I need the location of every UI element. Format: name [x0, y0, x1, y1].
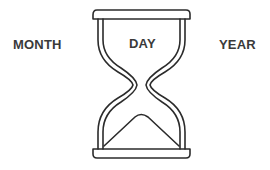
month-label: MONTH: [13, 38, 62, 51]
hourglass-bottom-cap: [93, 149, 190, 158]
day-label: DAY: [129, 37, 156, 50]
year-label: YEAR: [219, 38, 256, 51]
hourglass-icon: [0, 0, 270, 170]
hourglass-top-cap: [93, 10, 190, 19]
sand-pile: [104, 115, 179, 147]
